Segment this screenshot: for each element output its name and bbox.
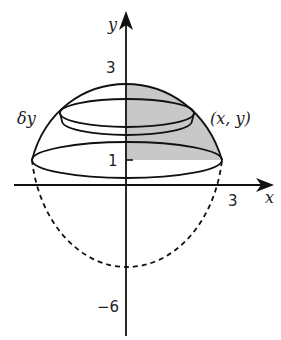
tick-label-3-x: 3 — [228, 192, 238, 210]
tick-label-neg6: −6 — [97, 298, 119, 316]
hemisphere-diagram: y x 3 1 3 −6 δy (x, y) — [0, 0, 281, 340]
delta-y-label: δy — [17, 109, 37, 128]
dashed-circle — [32, 160, 222, 267]
tick-label-3-y: 3 — [106, 59, 116, 77]
y-axis-label: y — [107, 15, 118, 34]
point-label: (x, y) — [210, 109, 251, 128]
shaded-region — [126, 84, 222, 160]
x-axis-label: x — [265, 188, 274, 207]
tick-label-1-y: 1 — [108, 152, 118, 170]
